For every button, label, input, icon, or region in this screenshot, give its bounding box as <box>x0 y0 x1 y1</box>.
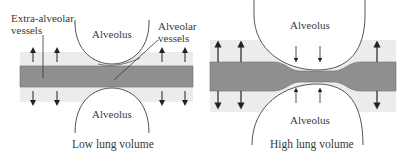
left-panel-low-lung-volume: Extra-alveolar vessels Alveolar vessels … <box>11 12 197 151</box>
alveolar-vessels-label-line2: vessels <box>158 32 189 44</box>
alveolus-bottom-label: Alveolus <box>92 108 132 120</box>
right-panel-high-lung-volume: Alveolus Alveolus High lung volume <box>210 0 396 151</box>
extra-alveolar-label-line1: Extra-alveolar <box>11 12 74 24</box>
caption-low-lung-volume: Low lung volume <box>72 138 154 151</box>
lung-volume-vessel-diagram: Extra-alveolar vessels Alveolar vessels … <box>0 0 401 159</box>
alveolar-vessels-label-line1: Alveolar <box>158 20 197 32</box>
caption-high-lung-volume: High lung volume <box>270 138 354 151</box>
alveolus-bottom-label: Alveolus <box>290 114 330 126</box>
extra-alveolar-label-line2: vessels <box>11 24 42 36</box>
extra-alveolar-vessel <box>20 66 193 87</box>
alveolus-top-label: Alveolus <box>290 19 330 31</box>
alveolus-top-label: Alveolus <box>92 28 132 40</box>
